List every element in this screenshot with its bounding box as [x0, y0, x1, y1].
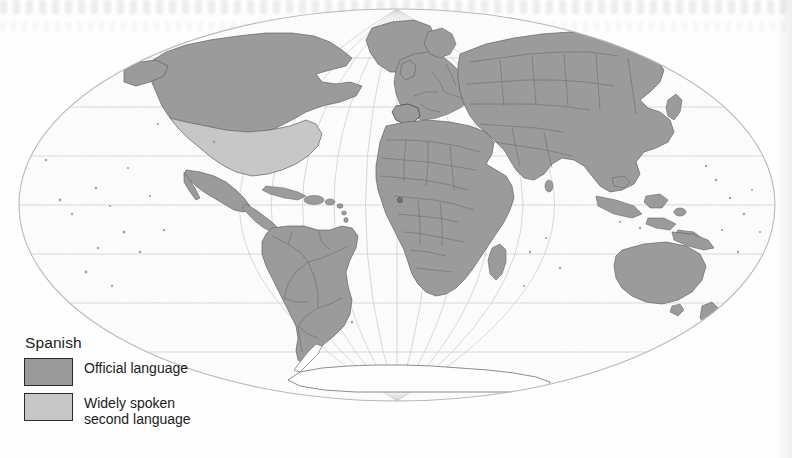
map-legend: Spanish Official language Widely spoken …: [24, 334, 239, 434]
region-sri-lanka: [545, 180, 553, 192]
legend-swatch-second-language: [24, 393, 73, 421]
legend-label-official-language: Official language: [84, 358, 188, 377]
region-equatorial-guinea: [397, 197, 402, 202]
legend-item-second-language: Widely spoken second language: [24, 393, 239, 427]
legend-label-second-language: Widely spoken second language: [84, 393, 191, 427]
legend-item-official: Official language: [24, 358, 239, 386]
legend-swatch-official-language: [24, 358, 73, 386]
legend-title: Spanish: [25, 334, 239, 352]
map-figure-page: Spanish Official language Widely spoken …: [0, 0, 792, 458]
